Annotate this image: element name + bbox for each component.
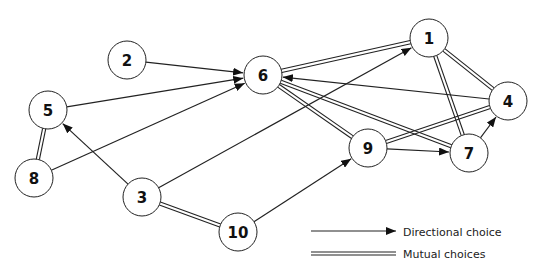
node-label: 5	[43, 102, 53, 120]
mutual-edge-3-10	[159, 202, 220, 227]
node-10: 10	[219, 213, 257, 251]
mutual-edge-line	[39, 129, 45, 160]
node-3: 3	[123, 178, 161, 216]
directional-edge-9-to-7	[387, 149, 449, 152]
mutual-edge-1-4	[443, 49, 494, 91]
mutual-edge-line	[282, 44, 411, 73]
node-2: 2	[108, 41, 146, 79]
node-label: 4	[503, 93, 513, 111]
node-label: 10	[228, 224, 249, 242]
node-5: 5	[29, 91, 67, 129]
mutual-edge-6-1	[281, 41, 411, 73]
directional-edge-2-to-6	[146, 62, 243, 73]
mutual-edge-line	[445, 49, 494, 88]
legend: Directional choice Mutual choices	[311, 226, 502, 261]
node-9: 9	[349, 129, 387, 167]
legend-mutual-label: Mutual choices	[403, 248, 486, 261]
node-label: 6	[258, 67, 268, 85]
node-4: 4	[489, 82, 527, 120]
nodes: 12345678910	[15, 19, 527, 251]
directional-edge-7-to-4	[480, 117, 496, 138]
directional-edge-3-to-5	[63, 124, 128, 185]
node-label: 2	[122, 52, 132, 70]
mutual-edge-line	[160, 202, 220, 224]
directional-edge-5-to-6	[67, 78, 244, 107]
node-label: 9	[363, 140, 373, 158]
node-6: 6	[244, 56, 282, 94]
legend-directional: Directional choice	[311, 226, 502, 239]
mutual-edge-line	[280, 85, 354, 136]
legend-mutual: Mutual choices	[311, 248, 486, 261]
node-label: 1	[424, 30, 434, 48]
node-7: 7	[450, 134, 488, 172]
mutual-edge-line	[278, 87, 352, 138]
directional-edge-8-to-6	[51, 83, 244, 170]
mutual-edge-5-8	[36, 128, 45, 159]
node-8: 8	[15, 159, 53, 197]
mutual-edge-line	[36, 128, 42, 159]
node-label: 8	[29, 170, 39, 188]
sociogram-diagram: 12345678910 Directional choice Mutual ch…	[0, 0, 541, 274]
legend-directional-label: Directional choice	[403, 226, 502, 239]
mutual-edge-line	[443, 51, 492, 90]
mutual-edge-line	[159, 205, 219, 227]
node-1: 1	[410, 19, 448, 57]
mutual-edge-line	[281, 41, 410, 70]
directional-edge-10-to-9	[254, 159, 351, 222]
node-label: 7	[464, 145, 474, 163]
node-label: 3	[137, 189, 147, 207]
